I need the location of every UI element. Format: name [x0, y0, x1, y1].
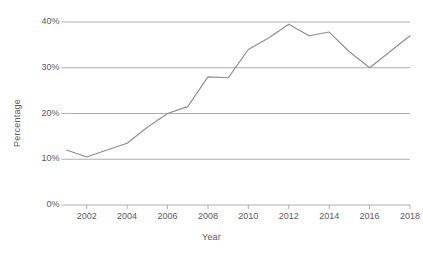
y-axis-tick-label: 0% [30, 199, 60, 209]
x-axis-title: Year [0, 232, 423, 242]
y-axis-tick-label: 10% [30, 153, 60, 163]
x-axis-tick-label: 2018 [390, 211, 423, 221]
y-axis-tick-marks [62, 22, 67, 205]
y-axis-tick-label: 30% [30, 62, 60, 72]
x-axis-tick-label: 2012 [269, 211, 309, 221]
x-axis-tick-label: 2008 [188, 211, 228, 221]
data-series-line [67, 24, 411, 157]
x-axis-tick-label: 2016 [350, 211, 390, 221]
x-axis-tick-label: 2004 [107, 211, 147, 221]
x-axis-tick-label: 2002 [67, 211, 107, 221]
x-axis-tick-label: 2010 [228, 211, 268, 221]
x-axis-tick-marks [87, 205, 410, 209]
y-axis-title-text: Percentage [12, 99, 22, 147]
gridlines [67, 22, 411, 205]
x-axis-tick-label: 2006 [148, 211, 188, 221]
x-axis-tick-label: 2014 [309, 211, 349, 221]
y-axis-tick-label: 20% [30, 108, 60, 118]
line-chart: 0%10%20%30%40% 2002200420062008201020122… [0, 0, 423, 255]
y-axis-title: Percentage [10, 78, 24, 168]
y-axis-tick-label: 40% [30, 16, 60, 26]
